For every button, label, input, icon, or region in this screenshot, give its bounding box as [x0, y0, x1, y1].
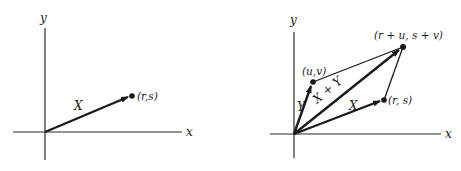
- right-x-axis-label: x: [445, 127, 452, 141]
- right-panel: x y X Y X + Y (r, s) (u,v) (r + u, s + v…: [270, 13, 452, 158]
- right-point-uv: [310, 79, 316, 85]
- left-x-axis-label: x: [186, 125, 193, 139]
- left-point-rs: [129, 93, 135, 99]
- right-point-sum: [400, 44, 406, 50]
- right-vector-x: [294, 101, 380, 134]
- vector-addition-diagram: x y X (r,s) x y X Y X + Y (r, s) (u,v) (…: [0, 0, 461, 171]
- right-point-rs: [381, 97, 387, 103]
- left-vector-x: [45, 97, 128, 132]
- right-point-rs-label: (r, s): [388, 94, 412, 106]
- right-vector-x-label: X: [348, 99, 358, 113]
- left-point-rs-label: (r,s): [137, 90, 158, 102]
- left-y-axis-label: y: [39, 11, 47, 25]
- right-vector-y-label: Y: [297, 100, 306, 114]
- parallelogram-edge-top: [313, 47, 403, 82]
- left-vector-x-label: X: [73, 99, 83, 113]
- right-vector-sum-label: X + Y: [309, 73, 346, 107]
- right-point-sum-label: (r + u, s + v): [374, 29, 443, 41]
- right-point-uv-label: (u,v): [302, 65, 326, 77]
- right-y-axis-label: y: [289, 13, 297, 27]
- left-panel: x y X (r,s): [13, 11, 193, 160]
